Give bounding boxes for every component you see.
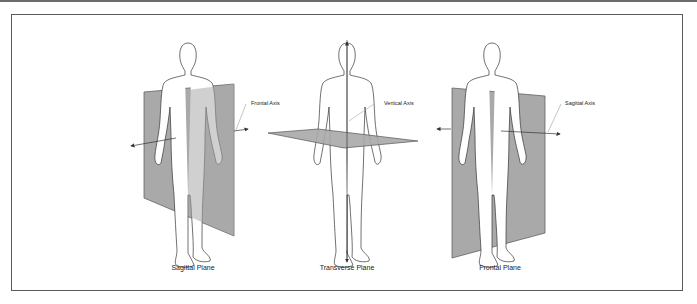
transverse-panel xyxy=(268,40,418,267)
frontal-axis-label: Frontal Axis xyxy=(251,100,280,106)
sagittal-panel xyxy=(131,43,248,267)
sagittal-axis-leader xyxy=(548,104,561,132)
transverse-plane-caption: Transverse Plane xyxy=(320,264,375,271)
anatomical-planes-diagram xyxy=(0,0,697,304)
frontal-axis-leader xyxy=(236,104,246,130)
transverse-plane xyxy=(268,129,418,148)
vertical-axis-label: Vertical Axis xyxy=(384,100,414,106)
frontal-panel xyxy=(437,43,561,267)
frontal-plane-caption: Frontal Plane xyxy=(479,264,521,271)
sagittal-plane-caption: Sagittal Plane xyxy=(171,264,214,271)
sagittal-axis-label: Sagittal Axis xyxy=(565,100,595,106)
